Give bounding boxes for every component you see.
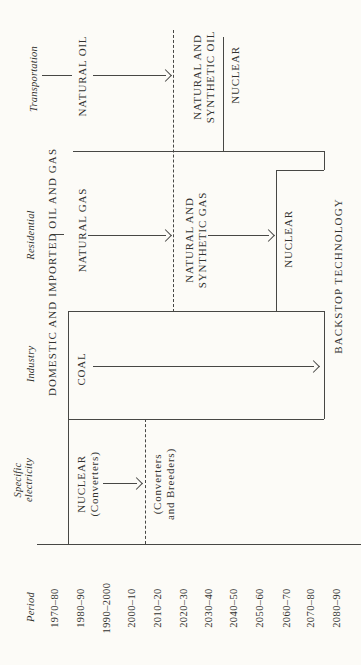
- transition-arrow-coal-to-backstop: [93, 366, 317, 367]
- fuel-label-converters-breeders: (Converters and Breeders): [151, 448, 177, 520]
- fuel-label-nuclear-converters: NUCLEAR (Converters): [75, 451, 101, 516]
- oil-nuclear-divider: [223, 37, 224, 151]
- period-label-2010-20: 2010–20: [151, 588, 164, 628]
- sector-label-industry: Industry: [25, 346, 36, 383]
- backstop-step-top-border: [276, 170, 324, 171]
- period-axis-line: [37, 544, 361, 545]
- coal-box-right-border: [324, 311, 325, 419]
- arrowhead-right-icon: [159, 229, 172, 242]
- sector-label-line: electricity: [23, 458, 34, 502]
- arrowhead-right-icon: [130, 477, 143, 490]
- period-label-2040-50: 2040–50: [227, 588, 240, 628]
- period-label-2070-80: 2070–80: [304, 588, 317, 628]
- period-label-2060-70: 2060–70: [280, 588, 293, 628]
- fuel-label-nuclear-residential: NUCLEAR: [282, 210, 295, 268]
- fuel-label-line: NATURAL AND: [183, 192, 196, 288]
- period-label-2050-60: 2050–60: [253, 588, 266, 628]
- energy-allocation-figure: Transportation Residential Industry Spec…: [0, 0, 361, 665]
- transition-arrow-syngas-to-nuclear: [208, 235, 272, 236]
- period-axis-title: Period: [25, 592, 36, 622]
- period-label-2020-30: 2020–30: [177, 588, 190, 628]
- period-label-2030-40: 2030–40: [202, 588, 215, 628]
- arrowhead-right-icon: [262, 229, 275, 242]
- period-label-1970-80: 1970–80: [48, 588, 61, 628]
- fuel-label-line: SYNTHETIC OIL: [204, 31, 217, 124]
- fuel-label-line: NUCLEAR: [75, 451, 88, 516]
- coal-box-top-border: [69, 311, 324, 312]
- arrow-shaft: [208, 235, 269, 236]
- transition-arrow-gas-to-synthetic: [88, 235, 169, 236]
- fuel-label-line: (Converters): [88, 451, 101, 516]
- fuel-label-line: SYNTHETIC GAS: [196, 192, 209, 288]
- fuel-label-line: NATURAL AND: [191, 31, 204, 124]
- fuel-label-backstop-technology: BACKSTOP TECHNOLOGY: [332, 198, 345, 353]
- gas-nuclear-divider: [276, 170, 277, 311]
- arrow-shaft: [93, 366, 314, 367]
- transition-2020-dashed-line: [173, 30, 174, 312]
- period-label-1980-90: 1980–90: [74, 588, 87, 628]
- period-label-2080-90: 2080–90: [330, 588, 343, 628]
- fuel-label-natural-gas: NATURAL GAS: [76, 188, 89, 272]
- sector-label-line: Specific: [12, 458, 23, 502]
- transition-2010-dashed-line: [145, 419, 146, 544]
- fuel-label-coal: COAL: [75, 352, 88, 385]
- fuel-label-line: (Converters: [151, 448, 164, 520]
- backstop-step-right-border: [324, 151, 325, 170]
- transition-arrow-converters-to-breeders: [103, 483, 140, 484]
- period-label-2000-10: 2000–10: [125, 588, 138, 628]
- arrow-shaft: [93, 75, 166, 76]
- sector-label-transportation: Transportation: [28, 46, 39, 112]
- coal-box-bottom-border: [68, 419, 324, 420]
- transition-arrow-oil-to-synthetic: [93, 75, 169, 76]
- figure-left-border: [68, 311, 69, 544]
- sector-label-specific-electricity: Specific electricity: [12, 458, 34, 502]
- transportation-header-tick: [42, 75, 72, 76]
- period-label-1990-2000: 1990–2000: [100, 583, 113, 634]
- arrowhead-right-icon: [159, 69, 172, 82]
- fuel-label-domestic-imported-oil-gas: DOMESTIC AND IMPORTED OIL AND GAS: [46, 148, 59, 396]
- fuel-label-nuclear-transportation: NUCLEAR: [229, 46, 242, 104]
- fuel-label-line: and Breeders): [164, 448, 177, 520]
- sector-label-residential: Residential: [25, 210, 36, 259]
- arrow-shaft: [88, 235, 166, 236]
- fuel-label-natural-synthetic-oil: NATURAL AND SYNTHETIC OIL: [191, 31, 217, 124]
- arrowhead-right-icon: [307, 360, 320, 373]
- fuel-label-natural-synthetic-gas: NATURAL AND SYNTHETIC GAS: [183, 192, 209, 288]
- transportation-residential-divider: [73, 151, 324, 152]
- fuel-label-natural-oil: NATURAL OIL: [76, 36, 89, 117]
